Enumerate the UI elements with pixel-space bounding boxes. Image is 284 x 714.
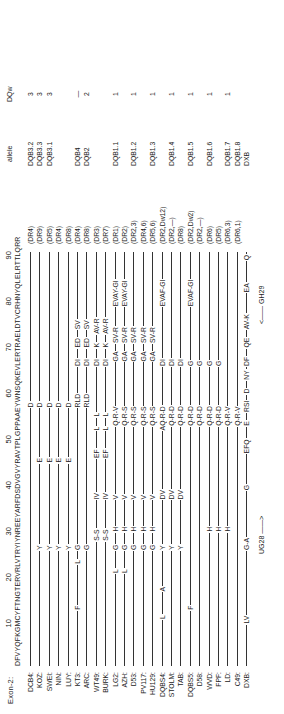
allele-name: DQB1.4 <box>167 116 176 166</box>
substitution: E <box>242 420 251 427</box>
substitution: RSI <box>242 400 251 413</box>
substitution: H <box>120 526 129 533</box>
dr-haplotype: (DR1) <box>111 174 120 244</box>
allele-name: DQB1.1 <box>111 116 120 166</box>
substitution: S-S <box>101 528 110 541</box>
substitution: GA <box>129 351 138 363</box>
substitution: RLD <box>73 393 82 409</box>
allele-row: LD:HQ-R-V(DR6,3)DQB1.71 <box>223 14 232 714</box>
substitution: SV-R <box>111 326 120 344</box>
substitution: Q-R-D <box>205 405 214 427</box>
row-label: WT49: <box>92 672 101 712</box>
substitution: AV-R <box>92 317 101 334</box>
substitution: L <box>101 412 110 418</box>
identity-line <box>115 252 116 666</box>
substitution: V <box>148 494 157 501</box>
substitution: D <box>64 401 73 408</box>
identity-line <box>227 252 228 666</box>
substitution: DF <box>242 356 251 367</box>
substitution: Y <box>35 544 44 551</box>
identity-line <box>180 252 181 666</box>
row-label: KT3: <box>73 672 82 712</box>
row-label: LG2: <box>111 672 120 712</box>
allele-row: DQBS4:LAYDVAQ-R-DDIEVAF-GI(DR2,Dw12) <box>158 14 167 714</box>
row-label: ARC: <box>82 672 91 712</box>
dqw-specificity: 1 <box>205 84 214 104</box>
substitution: E <box>45 457 54 464</box>
substitution: E <box>54 457 63 464</box>
substitution: Y <box>176 544 185 551</box>
substitution: D <box>45 401 54 408</box>
ruler-tick: 90 <box>4 251 13 260</box>
substitution: L <box>101 426 110 432</box>
ruler-tick: 10 <box>4 619 13 628</box>
identity-line <box>105 252 106 666</box>
substitution: G-A <box>242 537 251 551</box>
allele-row: HU129:GHVQ-R-SGASV-R(DR5,6)DQB1.31 <box>148 14 157 714</box>
substitution: G <box>195 360 204 367</box>
substitution: G <box>205 360 214 367</box>
substitution: SV-R <box>129 326 138 344</box>
ruler-tick: 20 <box>4 573 13 582</box>
substitution: K <box>101 342 110 349</box>
substitution: SV-R <box>148 326 157 344</box>
ruler-tick: 50 <box>4 435 13 444</box>
row-label: LUY: <box>64 672 73 712</box>
substitution: Q-R-V <box>223 406 232 427</box>
substitution: F <box>73 605 82 611</box>
identity-line <box>162 252 163 666</box>
dr-haplotype: (DR5,6) <box>148 174 157 244</box>
row-label: WVD: <box>205 672 214 712</box>
substitution: Q <box>242 254 251 261</box>
row-label: BURK: <box>101 672 110 712</box>
row-label: SWEI: <box>45 672 54 712</box>
ruler-tick: 80 <box>4 297 13 306</box>
substitution: L <box>111 568 120 574</box>
allele-row: DCB4:D(DR4)DQB3.23 <box>26 14 35 714</box>
substitution: GA <box>139 351 148 363</box>
substitution: D <box>54 401 63 408</box>
substitution: L <box>73 559 82 565</box>
dr-haplotype: (DR4) <box>54 174 63 244</box>
substitution: G <box>120 544 129 551</box>
dr-haplotype: (DR7) <box>101 174 110 244</box>
allele-row: SWEI:YED(DR5)DQB3.13 <box>45 14 54 714</box>
dr-haplotype: (DR4,6) <box>139 174 148 244</box>
row-label: DCB4: <box>26 672 35 712</box>
substitution: DI <box>158 358 167 367</box>
dr-haplotype: (DR8) <box>176 174 185 244</box>
substitution: L <box>92 426 101 432</box>
substitution: Q-R-D <box>214 405 223 427</box>
substitution: D <box>26 401 35 408</box>
dqw-specificity: 1 <box>186 84 195 104</box>
substitution: DI <box>73 358 82 367</box>
allele-row: BURK:S-SIVEFLLDIKAV-R(DR7) <box>101 14 110 714</box>
substitution: EVAF-GI <box>186 279 195 308</box>
allele-row: FPF:HQ-R-DG(DR5) <box>214 14 223 714</box>
substitution: G <box>139 544 148 551</box>
dr-haplotype: (DR5) <box>45 174 54 244</box>
substitution: V <box>111 494 120 501</box>
dqw-specificity: 1 <box>148 84 157 104</box>
substitution: L <box>158 614 167 620</box>
dqw-specificity: 3 <box>45 84 54 104</box>
allele-row: NIN:YED(DR4) <box>54 14 63 714</box>
allele-row: AZH:LGHVQ-R-SGASV-REVAY-GI(DR2) <box>120 14 129 714</box>
ruler-tick: 30 <box>4 527 13 536</box>
dr-haplotype: (DR4) <box>26 174 35 244</box>
identity-line <box>152 252 153 666</box>
substitution: G <box>73 544 82 551</box>
substitution: EF <box>92 448 101 459</box>
substitution: Y <box>45 544 54 551</box>
dqw-specificity: 1 <box>129 84 138 104</box>
substitution: Q-R-D <box>195 405 204 427</box>
identity-line <box>96 252 97 666</box>
dr-haplotype: (DR2,—) <box>195 174 204 244</box>
substitution: IV <box>101 492 110 500</box>
ruler-tick: 40 <box>4 481 13 490</box>
allele-row: D58:Q-R-DG(DR2,—) <box>195 14 204 714</box>
substitution: G <box>82 544 91 551</box>
substitution: L <box>92 412 101 418</box>
rotated-alignment-figure: Exon-2: 102030405060708090 DFVYQFKGMCYFT… <box>0 0 284 714</box>
allele-row: LUY:YED(DR8) <box>64 14 73 714</box>
